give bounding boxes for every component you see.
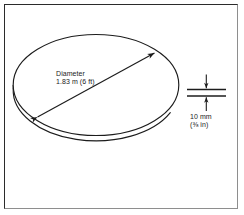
thickness-label: 10 mm (⅜ in) — [190, 113, 212, 130]
thickness-label-line-1: 10 mm — [190, 113, 212, 121]
thickness-dimension — [187, 75, 226, 112]
disk-diagram-canvas — [0, 0, 244, 215]
diameter-label-line-1: Diameter — [56, 70, 95, 78]
disk-body — [13, 35, 179, 141]
diameter-label: Diameter 1.83 m (6 ft) — [56, 70, 95, 87]
diameter-label-line-2: 1.83 m (6 ft) — [56, 78, 95, 86]
figure-root: Diameter 1.83 m (6 ft) 10 mm (⅜ in) — [0, 0, 244, 215]
thickness-label-line-2: (⅜ in) — [190, 121, 212, 129]
